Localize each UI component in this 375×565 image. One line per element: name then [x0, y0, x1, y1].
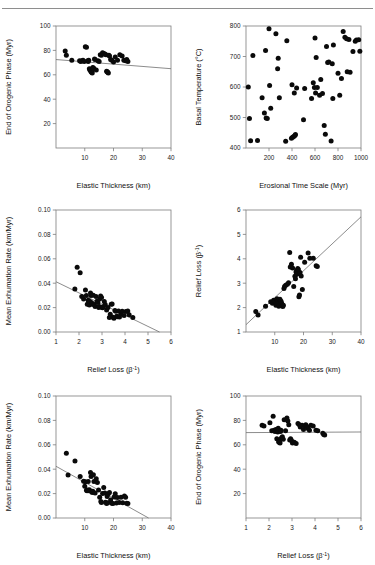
data-point	[83, 287, 88, 292]
data-point	[69, 58, 74, 63]
data-point	[337, 93, 342, 98]
data-point	[125, 501, 130, 506]
panel-top-left-points	[63, 44, 131, 75]
panel-bottom-left-points	[64, 451, 131, 506]
data-point	[322, 433, 327, 438]
data-point	[125, 59, 130, 64]
data-point	[276, 56, 281, 61]
data-point	[294, 441, 299, 446]
x-tick-label: 20	[110, 154, 118, 161]
y-tick-label: 800	[230, 22, 241, 29]
data-point	[286, 280, 291, 285]
y-tick-label: 0.08	[38, 417, 51, 424]
data-point	[341, 29, 346, 34]
panel-middle-right-ylabel: Relief Loss (β-1)	[194, 245, 203, 297]
data-point	[284, 38, 289, 43]
y-tick-label: 0.00	[38, 514, 51, 521]
data-point	[78, 270, 83, 275]
panel-top-left-xlabel: Elastic Thickness (km)	[77, 181, 151, 190]
data-point	[267, 420, 272, 425]
data-point	[291, 284, 296, 289]
x-tick-label: 5	[336, 524, 340, 531]
panel-middle-left-points	[72, 265, 135, 321]
y-tick-label: 700	[230, 53, 241, 60]
data-point	[262, 110, 267, 115]
x-tick-label: 10	[81, 154, 89, 161]
data-point	[265, 116, 270, 121]
data-point	[311, 423, 316, 428]
panel-bottom-left-xlabel: Elastic Thickness (km)	[77, 551, 151, 560]
x-tick-label: 40	[357, 338, 365, 345]
panel-middle-right-svg: 10203040123456Elastic Thickness (km)Reli…	[190, 196, 375, 378]
data-point	[64, 451, 69, 456]
data-point	[324, 44, 329, 49]
x-tick-label: 6	[169, 338, 173, 345]
y-tick-label: 0.08	[38, 231, 51, 238]
data-point	[290, 82, 295, 87]
x-tick-label: 30	[329, 338, 337, 345]
y-tick-label: 0.00	[38, 328, 51, 335]
data-point	[84, 45, 89, 50]
panel-bottom-right: 12345620406080100Relief Loss (β-1)End of…	[190, 382, 375, 564]
data-point	[331, 42, 336, 47]
data-point	[320, 91, 325, 96]
data-point	[95, 480, 100, 485]
data-point	[294, 85, 299, 90]
y-tick-label: 20	[233, 490, 241, 497]
x-tick-label: 30	[139, 524, 147, 531]
data-point	[91, 472, 96, 477]
x-tick-label: 2	[267, 524, 271, 531]
y-tick-label: 40	[233, 466, 241, 473]
y-tick-label: 3	[237, 280, 241, 287]
panel-top-left: 1020304020406080100Elastic Thickness (km…	[0, 12, 185, 194]
x-tick-label: 400	[287, 154, 298, 161]
y-tick-label: 500	[230, 114, 241, 121]
y-tick-label: 0.10	[38, 392, 51, 399]
y-tick-label: 100	[230, 392, 241, 399]
data-point	[107, 490, 112, 495]
data-point	[130, 315, 135, 320]
data-point	[277, 95, 282, 100]
panel-bottom-left: 102030400.000.020.040.060.080.10Elastic …	[0, 382, 185, 564]
y-tick-label: 0.04	[38, 466, 51, 473]
data-point	[86, 479, 91, 484]
data-point	[267, 26, 272, 31]
data-point	[301, 117, 306, 122]
panel-middle-right-xlabel: Elastic Thickness (km)	[267, 365, 341, 374]
y-tick-label: 0.02	[38, 490, 51, 497]
y-tick-label: 60	[43, 71, 51, 78]
panel-middle-right: 10203040123456Elastic Thickness (km)Reli…	[190, 196, 375, 378]
data-point	[315, 85, 320, 90]
data-point	[311, 80, 316, 85]
top-ghost-text	[190, 0, 310, 7]
data-point	[314, 55, 319, 60]
panel-middle-right-points	[253, 250, 320, 317]
data-point	[115, 58, 120, 63]
data-point	[350, 49, 355, 54]
data-point	[90, 70, 95, 75]
y-tick-label: 400	[230, 144, 241, 151]
y-tick-label: 600	[230, 83, 241, 90]
data-point	[297, 292, 302, 297]
y-tick-label: 80	[43, 47, 51, 54]
x-tick-label: 40	[167, 154, 175, 161]
data-point	[75, 265, 80, 270]
panel-bottom-right-trendline	[246, 432, 361, 433]
data-point	[110, 301, 115, 306]
panel-bottom-right-svg: 12345620406080100Relief Loss (β-1)End of…	[190, 382, 375, 564]
y-tick-label: 20	[43, 120, 51, 127]
data-point	[336, 71, 341, 76]
x-tick-label: 1	[244, 524, 248, 531]
data-point	[273, 31, 278, 36]
data-point	[315, 428, 320, 433]
y-tick-label: 100	[40, 22, 51, 29]
x-tick-label: 30	[139, 154, 147, 161]
data-point	[293, 132, 298, 137]
panel-middle-left-xlabel: Relief Loss (β-1)	[87, 365, 139, 374]
data-point	[346, 37, 351, 42]
panel-top-left-plot-frame	[56, 26, 171, 148]
data-point	[247, 116, 252, 121]
panel-bottom-left-plot-frame	[56, 396, 171, 518]
panel-middle-left-plot-frame	[56, 210, 171, 332]
x-tick-label: 6	[359, 524, 363, 531]
